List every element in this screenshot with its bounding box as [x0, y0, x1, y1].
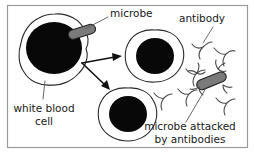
antibody-y-shape — [178, 89, 197, 106]
leader-line-microbe — [85, 17, 108, 29]
bound-antibody-bottom-right — [223, 85, 232, 93]
diagram-canvas: microbe antibody white blood cell microb… — [0, 0, 254, 161]
antibody-1 — [192, 42, 212, 59]
cell-nucleus — [109, 96, 147, 132]
arrow-to-upper-cell — [82, 53, 122, 63]
antibody-4 — [154, 93, 172, 110]
white-blood-cell-upper-right — [125, 30, 184, 82]
antibody-6 — [216, 98, 235, 115]
arrow-head — [112, 53, 122, 61]
cell-nucleus — [136, 38, 174, 74]
label-white-blood-cell-line1: white blood — [13, 102, 74, 114]
label-microbe: microbe — [110, 7, 153, 19]
white-blood-cell-lower-middle — [98, 88, 157, 141]
antibody-y-shape — [216, 98, 235, 115]
white-blood-cell-large — [19, 14, 88, 85]
label-white-blood-cell-line2: cell — [35, 115, 53, 127]
antibody-5 — [178, 89, 197, 106]
antibody-y-shape — [192, 42, 212, 59]
label-microbe-attacked-line2: by antibodies — [155, 133, 226, 145]
immune-response-diagram: microbe antibody white blood cell microb… — [0, 0, 254, 161]
leader-line-antibody — [203, 27, 213, 43]
arrow-to-lower-cell — [82, 63, 110, 90]
bound-antibody-top-left — [188, 63, 205, 74]
antibody-y-shape — [154, 93, 172, 110]
label-microbe-attacked-line1: microbe attacked — [144, 120, 236, 132]
microbe-attacked — [188, 60, 232, 95]
label-antibody: antibody — [179, 12, 225, 24]
arrow-shaft — [82, 63, 104, 84]
leader-line-microbe-attacked — [186, 88, 206, 122]
